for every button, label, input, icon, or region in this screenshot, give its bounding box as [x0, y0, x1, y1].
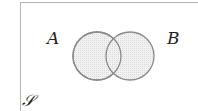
venn-diagram: A B 𝒮: [0, 0, 198, 111]
set-b-circle: [106, 32, 154, 80]
set-b-label: B: [166, 28, 180, 48]
set-a-label: A: [45, 28, 59, 48]
